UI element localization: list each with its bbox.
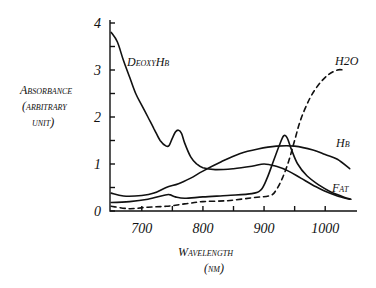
label-deoxyhb: DeoxyHb — [126, 55, 169, 69]
curve-h2o — [111, 70, 343, 209]
label-h2o: H2O — [334, 54, 359, 68]
x-axis-title-line1: Wavelength — [178, 245, 234, 259]
x-tick-label: 1000 — [311, 221, 339, 236]
label-hb: Hb — [335, 136, 350, 150]
y-tick-label: 1 — [94, 157, 101, 172]
x-tick-label: 900 — [254, 221, 275, 236]
x-tick-label: 700 — [131, 221, 152, 236]
y-axis-title-line3: unit) — [32, 115, 54, 129]
y-tick-label: 0 — [94, 204, 101, 219]
label-fat: Fat — [331, 181, 349, 195]
x-tick-label: 800 — [192, 221, 213, 236]
x-axis-title-line2: (nm) — [204, 261, 224, 275]
y-tick-label: 2 — [94, 110, 101, 125]
axes: 012347008009001000 — [93, 16, 357, 236]
y-tick-label: 3 — [93, 63, 101, 78]
y-axis-title-line2: (arbitrary — [22, 99, 68, 113]
y-axis-title-line1: Absorbance — [19, 83, 72, 97]
curve-hb — [111, 146, 350, 196]
y-tick-label: 4 — [94, 16, 101, 31]
absorbance-chart: 012347008009001000 Absorbance (arbitrary… — [0, 0, 376, 288]
